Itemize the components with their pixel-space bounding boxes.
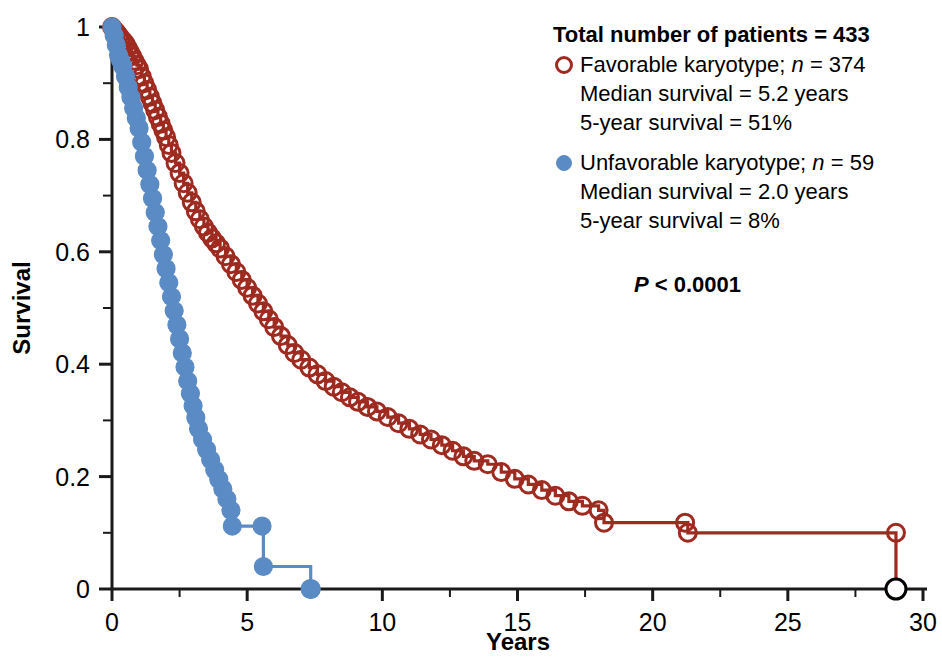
legend-median-survival-1: Median survival = 2.0 years [580,179,848,204]
x-tick-label: 30 [909,608,937,636]
legend-five-year-survival-0: 5-year survival = 51% [580,110,792,135]
censor-marker-1 [253,517,271,535]
x-tick-label: 5 [240,608,254,636]
y-tick-label: 0.2 [55,463,90,491]
filled-circle-blue-icon [557,156,572,171]
legend-n-value-0: = 374 [804,52,866,77]
legend-entry-line1-1: Unfavorable karyotype; n = 59 [580,150,874,175]
terminal-marker-0 [886,579,906,599]
y-tick-label: 1 [76,13,90,41]
x-tick-label: 20 [639,608,667,636]
x-axis-title: Years [486,628,550,655]
p-symbol: P [634,272,649,297]
legend-n-value-1: = 59 [825,150,875,175]
censor-marker-1 [254,558,272,576]
p-value-annotation: P < 0.0001 [634,272,741,297]
legend-median-survival-0: Median survival = 5.2 years [580,81,848,106]
legend-series-name-1: Unfavorable karyotype; [580,150,812,175]
kaplan-meier-plot: 05101520253000.20.40.60.81 Years Surviva… [0,0,942,658]
legend-total-label: Total number of patients = 433 [553,22,870,47]
p-value-number: < 0.0001 [649,272,741,297]
terminal-marker-1 [301,580,320,599]
survival-chart-page: 05101520253000.20.40.60.81 Years Surviva… [0,0,942,658]
x-tick-label: 0 [105,608,119,636]
legend-series-name-0: Favorable karyotype; [580,52,792,77]
x-tick-label: 10 [368,608,396,636]
y-tick-label: 0.4 [55,350,90,378]
y-axis-title: Survival [8,261,35,354]
y-tick-label: 0.8 [55,125,90,153]
x-tick-label: 25 [774,608,802,636]
y-tick-label: 0 [76,575,90,603]
legend-entry-line1-0: Favorable karyotype; n = 374 [580,52,866,77]
legend-n-symbol-1: n [812,150,824,175]
legend-n-symbol-0: n [792,52,804,77]
legend-five-year-survival-1: 5-year survival = 8% [580,208,780,233]
y-tick-label: 0.6 [55,238,90,266]
censor-marker-1 [223,517,241,535]
